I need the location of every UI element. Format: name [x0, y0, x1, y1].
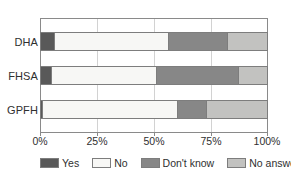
legend-swatch-yes — [40, 158, 59, 168]
legend-label-no-answer: No answer — [249, 158, 291, 169]
xtick-label-0: 0% — [20, 136, 60, 147]
bar-row-dha — [40, 32, 268, 51]
xtick-label-25: 25% — [77, 136, 117, 147]
bars-layer — [40, 18, 268, 133]
legend-swatch-no — [92, 158, 111, 168]
chart-legend: Yes No Don't know No answer — [40, 155, 280, 171]
legend-swatch-no-answer — [227, 158, 246, 168]
bar-segment-gpfh-no-answer[interactable] — [206, 100, 268, 119]
category-label-gpfh: GPFH — [0, 105, 38, 116]
bar-segment-dha-yes[interactable] — [40, 32, 54, 51]
xtick-label-100: 100% — [247, 136, 287, 147]
legend-item-no[interactable]: No — [92, 158, 127, 169]
bar-segment-dha-no-answer[interactable] — [227, 32, 268, 51]
bar-segment-fhsa-no-answer[interactable] — [238, 66, 268, 85]
xtick-label-75: 75% — [191, 136, 231, 147]
bar-segment-dha-dont-know[interactable] — [168, 32, 227, 51]
bar-segment-gpfh-dont-know[interactable] — [177, 100, 207, 119]
legend-swatch-dont-know — [141, 158, 160, 168]
bar-segment-fhsa-no[interactable] — [51, 66, 156, 85]
category-label-fhsa: FHSA — [0, 71, 38, 82]
legend-label-no: No — [114, 158, 127, 169]
legend-label-yes: Yes — [62, 158, 79, 169]
legend-label-dont-know: Don't know — [163, 158, 215, 169]
bar-segment-fhsa-dont-know[interactable] — [156, 66, 238, 85]
stacked-bar-chart: DHA FHSA GPFH 0% 25% 50% 75% 100% Yes No… — [0, 0, 291, 181]
bar-row-gpfh — [40, 100, 268, 119]
bar-row-fhsa — [40, 66, 268, 85]
legend-item-no-answer[interactable]: No answer — [227, 158, 291, 169]
xtick-label-50: 50% — [134, 136, 174, 147]
legend-item-yes[interactable]: Yes — [40, 158, 79, 169]
bar-segment-fhsa-yes[interactable] — [40, 66, 51, 85]
bar-segment-dha-no[interactable] — [54, 32, 168, 51]
legend-item-dont-know[interactable]: Don't know — [141, 158, 215, 169]
bar-segment-gpfh-no[interactable] — [42, 100, 177, 119]
category-label-dha: DHA — [0, 37, 38, 48]
